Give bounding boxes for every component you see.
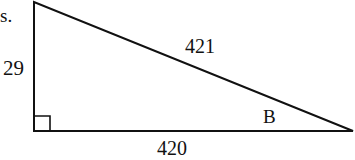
angle-b-label: B [263,107,276,126]
hypotenuse-label: 421 [185,36,215,56]
triangle [34,2,353,131]
fragment-text: s. [0,6,12,25]
vertical-leg-label: 29 [3,58,24,79]
right-angle-marker [34,116,50,131]
triangle-figure [0,0,355,160]
horizontal-leg-label: 420 [157,138,187,158]
